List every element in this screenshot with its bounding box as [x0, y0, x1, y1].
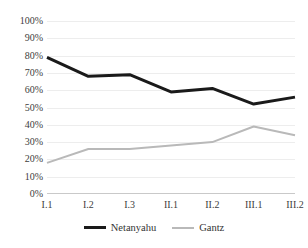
y-axis-tick-label: 10%: [25, 172, 43, 182]
line-chart: 100%90%80%70%60%50%40%30%20%10%0% I.1I.2…: [0, 0, 308, 248]
y-axis-tick-label: 0%: [30, 189, 43, 199]
y-axis-tick-label: 50%: [25, 103, 43, 113]
x-axis-tick-label: I.2: [83, 199, 94, 211]
legend-label-gantz: Gantz: [199, 222, 224, 233]
chart-legend: Netanyahu Gantz: [0, 222, 308, 233]
legend-swatch-netanyahu-icon: [84, 226, 106, 229]
legend-item-gantz[interactable]: Gantz: [172, 222, 224, 233]
series-line-netanyahu: [47, 57, 295, 104]
series-line-gantz: [47, 127, 295, 163]
legend-label-netanyahu: Netanyahu: [111, 222, 156, 233]
y-axis-tick-label: 90%: [25, 33, 43, 43]
x-axis-tick-label: I.3: [124, 199, 135, 211]
x-axis-labels: I.1I.2I.3II.1II.2III.1III.2: [47, 199, 295, 215]
legend-item-netanyahu[interactable]: Netanyahu: [84, 222, 156, 233]
y-axis-tick-label: 80%: [25, 51, 43, 61]
x-axis-tick-label: II.2: [205, 199, 219, 211]
y-axis-tick-label: 70%: [25, 68, 43, 78]
y-axis-tick-label: 40%: [25, 120, 43, 130]
y-axis-tick-label: 30%: [25, 137, 43, 147]
series-layer: [47, 21, 295, 194]
y-axis-tick-label: 20%: [25, 154, 43, 164]
legend-swatch-gantz-icon: [172, 227, 194, 229]
plot-area: [47, 21, 295, 194]
y-axis-labels: 100%90%80%70%60%50%40%30%20%10%0%: [0, 0, 43, 248]
x-axis-tick-label: I.1: [42, 199, 53, 211]
x-axis-tick-label: III.1: [245, 199, 263, 211]
x-axis-tick-label: II.1: [164, 199, 178, 211]
x-axis-tick-label: III.2: [286, 199, 304, 211]
y-axis-tick-label: 60%: [25, 85, 43, 95]
y-axis-tick-label: 100%: [20, 16, 43, 26]
